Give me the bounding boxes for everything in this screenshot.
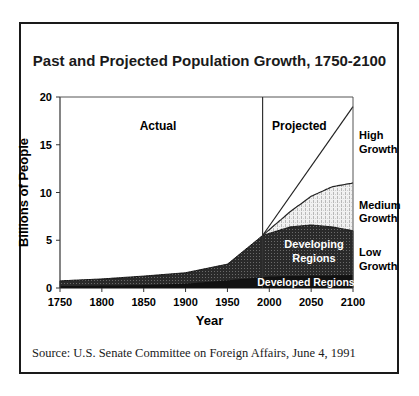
x-tick-label: 2100 bbox=[341, 296, 365, 308]
source-note: Source: U.S. Senate Committee on Foreign… bbox=[32, 346, 356, 361]
x-axis-label: Year bbox=[0, 313, 419, 328]
svg-text:Regions: Regions bbox=[292, 252, 335, 264]
svg-text:Growth: Growth bbox=[359, 260, 398, 272]
medium-growth-label: Medium bbox=[359, 199, 401, 211]
developed-regions-label: Developed Regions bbox=[257, 276, 355, 288]
y-tick-label: 5 bbox=[46, 234, 52, 246]
y-tick-label: 15 bbox=[40, 139, 52, 151]
projected-label: Projected bbox=[272, 119, 327, 133]
x-tick-label: 1900 bbox=[173, 296, 197, 308]
x-tick-label: 1950 bbox=[215, 296, 239, 308]
y-tick-label: 10 bbox=[40, 187, 52, 199]
y-tick-label: 20 bbox=[40, 91, 52, 103]
x-tick-label: 1800 bbox=[90, 296, 114, 308]
y-axis-label: Billions of People bbox=[16, 138, 31, 247]
x-tick-label: 1850 bbox=[131, 296, 155, 308]
y-tick-label: 0 bbox=[46, 282, 52, 294]
low-growth-label: Low bbox=[359, 246, 381, 258]
svg-text:Growth: Growth bbox=[359, 212, 398, 224]
x-tick-label: 1750 bbox=[48, 296, 72, 308]
developing-regions-label: Developing bbox=[284, 238, 343, 250]
x-tick-label: 2000 bbox=[257, 296, 281, 308]
x-tick-label: 2050 bbox=[299, 296, 323, 308]
chart-plot: 0510152017501800185019001950200020502100… bbox=[0, 0, 419, 396]
actual-label: Actual bbox=[140, 119, 177, 133]
high-growth-label: High bbox=[359, 129, 384, 141]
svg-text:Growth: Growth bbox=[359, 143, 398, 155]
